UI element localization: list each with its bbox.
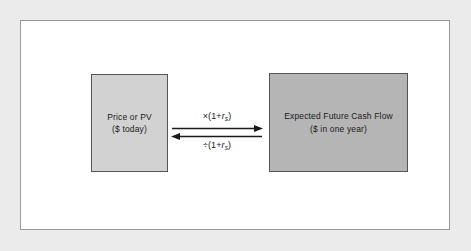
box-price-or-pv-line1: Price or PV — [107, 111, 152, 124]
divide-expression-prefix: (1+ — [208, 140, 222, 150]
box-expected-future-cash-flow-line2: ($ in one year) — [310, 123, 367, 136]
arrow-group: ×(1+rs) ÷(1+rs) — [171, 91, 263, 153]
double-headed-arrow — [171, 125, 263, 141]
arrow-label-divide: ÷(1+rs) — [171, 140, 263, 150]
arrow-label-multiply: ×(1+rs) — [171, 111, 263, 121]
box-price-or-pv-line2: ($ today) — [112, 123, 147, 136]
figure-root: Price or PV ($ today) Expected Future Ca… — [0, 0, 471, 251]
multiply-expression-suffix: ) — [228, 111, 231, 121]
divide-subscript: s — [225, 144, 228, 151]
diagram-panel: Price or PV ($ today) Expected Future Ca… — [20, 20, 450, 230]
box-price-or-pv: Price or PV ($ today) — [91, 74, 168, 172]
arrow-right-icon — [172, 125, 263, 132]
arrow-left-icon — [171, 133, 262, 140]
multiply-subscript: s — [225, 115, 228, 122]
box-expected-future-cash-flow: Expected Future Cash Flow ($ in one year… — [269, 73, 408, 172]
divide-expression-suffix: ) — [228, 140, 231, 150]
box-expected-future-cash-flow-line1: Expected Future Cash Flow — [284, 110, 393, 123]
multiply-expression-prefix: (1+ — [208, 111, 222, 121]
